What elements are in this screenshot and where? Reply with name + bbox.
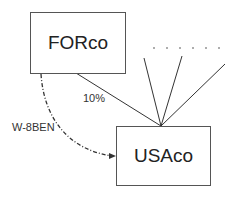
usaco-label: USAco	[134, 145, 193, 167]
forco-label: FORco	[48, 32, 108, 54]
other-owners-dots	[153, 47, 220, 49]
ownership-line-other-1	[144, 58, 161, 126]
usaco-box: USAco	[116, 126, 211, 186]
arrowhead-icon	[109, 153, 116, 159]
ownership-percent-label: 10%	[83, 92, 105, 104]
w8ben-arrow-line	[41, 74, 112, 156]
forco-box: FORco	[30, 12, 126, 74]
w8ben-label: W-8BEN	[12, 121, 55, 133]
